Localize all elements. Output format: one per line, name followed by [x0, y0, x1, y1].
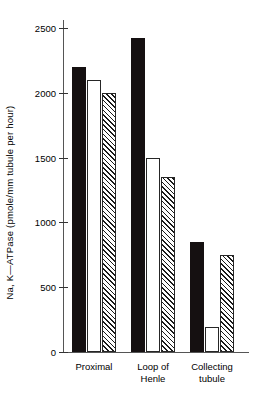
y-tick-label: 500: [40, 282, 56, 293]
bar-proximal-hatched: [102, 93, 116, 352]
y-tick-label: 1500: [35, 152, 56, 163]
y-tick-mark: [59, 222, 68, 223]
y-tick-mark: [59, 28, 68, 29]
y-axis-title: Na, K—ATPase (pmole/mm tubule per hour): [0, 0, 18, 405]
bar-collecting-tubule-hatched: [220, 255, 234, 352]
x-category-label-loop-of-henle: Loop of Henle: [137, 361, 169, 385]
y-tick-mark: [59, 93, 68, 94]
bar-collecting-tubule-open: [205, 327, 219, 352]
y-axis-line: [63, 20, 64, 352]
y-tick-mark: [59, 352, 68, 353]
bar-loop-of-henle-hatched: [161, 177, 175, 352]
plot-area: 0 500 1000 1500 2000 2500: [63, 20, 256, 352]
y-tick-mark: [59, 287, 68, 288]
bar-proximal-open: [87, 80, 101, 352]
y-tick-label: 0: [51, 347, 56, 358]
x-axis-line: [63, 352, 249, 353]
bar-loop-of-henle-open: [146, 158, 160, 352]
y-tick-mark: [59, 158, 68, 159]
bar-collecting-tubule-solid: [190, 242, 204, 352]
y-tick-label: 1000: [35, 217, 56, 228]
y-tick-label: 2000: [35, 87, 56, 98]
y-tick-label: 2500: [35, 23, 56, 34]
bar-chart-figure: Na, K—ATPase (pmole/mm tubule per hour) …: [0, 0, 256, 405]
x-category-label-collecting-tubule: Collecting tubule: [191, 361, 233, 385]
x-category-label-proximal: Proximal: [76, 361, 113, 373]
bar-proximal-solid: [72, 67, 86, 352]
bar-loop-of-henle-solid: [131, 38, 145, 352]
